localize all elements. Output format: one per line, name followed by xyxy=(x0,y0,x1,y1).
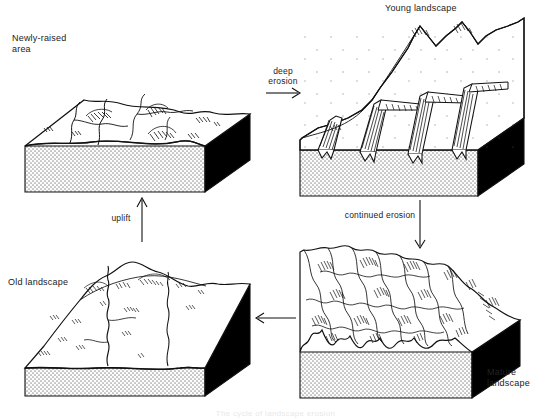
arrow-label-deep-erosion: deep erosion xyxy=(262,66,304,86)
arrow-return-left xyxy=(256,313,296,323)
figure-caption: The cycle of landscape erosion xyxy=(0,409,551,418)
block-newly-raised xyxy=(25,94,250,192)
block-young-landscape xyxy=(300,18,524,196)
label-young-landscape: Young landscape xyxy=(385,3,457,14)
arrow-label-continued-erosion: continued erosion xyxy=(332,210,428,220)
erosion-cycle-diagram xyxy=(0,0,551,419)
arrow-deep-erosion xyxy=(266,88,300,98)
arrow-continued-erosion xyxy=(415,200,425,248)
label-old-landscape: Old landscape xyxy=(8,277,68,288)
label-mature-landscape: Mature landscape xyxy=(487,367,530,389)
arrow-uplift xyxy=(137,198,147,242)
arrow-label-uplift: uplift xyxy=(104,213,138,223)
label-newly-raised-area: Newly-raised area xyxy=(12,33,66,55)
